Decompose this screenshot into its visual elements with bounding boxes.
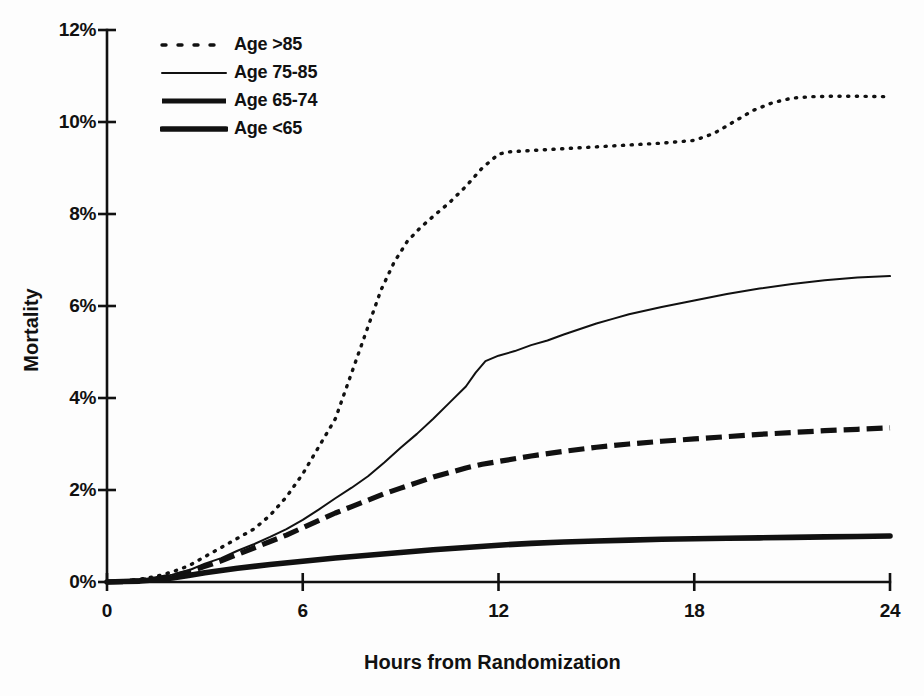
y-axis-tick-label: 4% [34, 387, 96, 409]
y-axis-tick-label: 6% [34, 295, 96, 317]
legend-label-2: Age 65-74 [234, 90, 317, 111]
legend-swatch-solid-thin [160, 63, 228, 83]
legend-label-0: Age >85 [234, 34, 302, 55]
x-axis-title: Hours from Randomization [364, 651, 621, 674]
y-axis-tick-label: 12% [34, 19, 96, 41]
legend-swatch-dotted [160, 35, 228, 55]
legend-label-3: Age <65 [234, 118, 302, 139]
series-line-age-85 [107, 96, 890, 582]
y-axis-tick-label: 0% [34, 571, 96, 593]
x-axis-tick-label: 12 [469, 600, 529, 622]
mortality-chart-figure: Mortality 0%2%4%6%8%10%12% 06121824 Hour… [0, 0, 924, 696]
x-axis-tick-label: 0 [77, 600, 137, 622]
x-axis-tick-label: 24 [860, 600, 920, 622]
series-line-age-65-74 [107, 428, 890, 582]
data-series-group [107, 96, 890, 582]
y-axis-tick-label: 2% [34, 479, 96, 501]
y-axis-tick-label: 10% [34, 111, 96, 133]
chart-plot-area: Mortality [0, 0, 924, 696]
legend-swatch-dashed-thick [160, 91, 228, 111]
x-axis-tick-label: 6 [273, 600, 333, 622]
y-axis-tick-label: 8% [34, 203, 96, 225]
x-axis-tick-label: 18 [664, 600, 724, 622]
legend-swatch-solid-thick [160, 119, 228, 139]
axis-group [98, 30, 890, 591]
legend-label-1: Age 75-85 [234, 62, 317, 83]
